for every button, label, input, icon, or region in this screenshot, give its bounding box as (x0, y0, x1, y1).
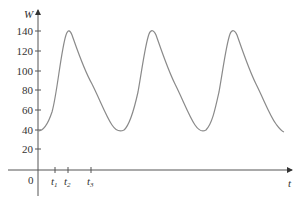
w-curve (38, 31, 284, 132)
x-axis-title: t (288, 177, 292, 189)
y-label-20: 20 (22, 143, 34, 155)
y-label-80: 80 (22, 84, 34, 96)
y-label-60: 60 (22, 104, 34, 116)
y-label-140: 140 (17, 25, 34, 37)
y-tick-labels: 140 120 100 80 60 40 20 (17, 25, 34, 155)
y-label-40: 40 (22, 124, 34, 136)
y-label-120: 120 (17, 45, 34, 57)
x-label-t2: t2 (64, 175, 71, 189)
y-label-100: 100 (17, 65, 34, 77)
x-label-t3: t3 (87, 175, 94, 189)
chart-canvas: 140 120 100 80 60 40 20 W t 0 t1 t2 t3 (0, 0, 300, 200)
x-label-t1: t1 (51, 175, 58, 189)
origin-label: 0 (28, 174, 34, 186)
y-axis-title: W (24, 8, 34, 20)
